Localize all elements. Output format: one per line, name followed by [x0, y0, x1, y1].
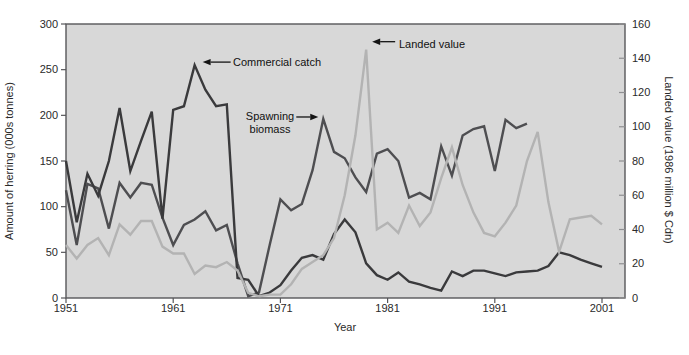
left-axis-title: Amount of herring (000s tonnes): [3, 82, 15, 240]
annotation-commercial-catch: Commercial catch: [233, 56, 321, 69]
y-right-tick-60: 60: [632, 189, 664, 202]
y-right-tick-20: 20: [632, 257, 664, 270]
y-right-tick-140: 140: [632, 52, 664, 65]
x-tick-1961: 1961: [155, 302, 191, 315]
x-tick-1971: 1971: [262, 302, 298, 315]
y-right-tick-100: 100: [632, 120, 664, 133]
annotation-landed-value: Landed value: [399, 38, 465, 51]
right-axis-title: Landed value (1986 million $ Cdn): [663, 76, 675, 244]
x-tick-2001: 2001: [584, 302, 620, 315]
herring-fishery-chart: Amount of herring (000s tonnes) Landed v…: [0, 0, 689, 355]
x-tick-1991: 1991: [477, 302, 513, 315]
y-left-tick-300: 300: [26, 18, 58, 31]
y-left-tick-150: 150: [26, 155, 58, 168]
y-left-tick-200: 200: [26, 109, 58, 122]
x-tick-1951: 1951: [48, 302, 84, 315]
y-right-tick-80: 80: [632, 155, 664, 168]
y-right-tick-40: 40: [632, 223, 664, 236]
annotation-spawning-biomass: Spawningbiomass: [240, 110, 300, 135]
annotation-spawning-line1: Spawning: [246, 110, 294, 122]
y-left-tick-100: 100: [26, 200, 58, 213]
y-right-tick-120: 120: [632, 86, 664, 99]
y-right-tick-160: 160: [632, 18, 664, 31]
x-axis-title: Year: [300, 321, 390, 333]
x-tick-1981: 1981: [370, 302, 406, 315]
y-right-tick-0: 0: [632, 292, 664, 305]
y-left-tick-250: 250: [26, 63, 58, 76]
annotation-biomass-line2: biomass: [250, 123, 291, 135]
y-left-tick-50: 50: [26, 246, 58, 259]
